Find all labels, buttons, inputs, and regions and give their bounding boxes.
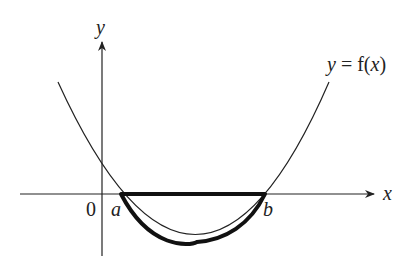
point-a-label: a [111,198,121,220]
point-b-label: b [263,198,273,220]
function-graph: y x 0 a b y = f(x) [0,0,414,269]
origin-label: 0 [86,198,96,220]
curve-f [58,82,329,235]
curve-bold-segment [121,194,265,244]
curve-label: y = f(x) [325,53,386,76]
y-axis-label: y [94,16,105,39]
x-axis-label: x [382,182,392,204]
